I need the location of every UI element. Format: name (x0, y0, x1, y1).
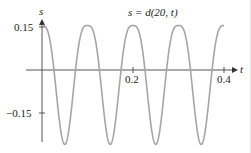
y-tick-label-bottom: −0.15 (6, 108, 31, 119)
y-axis-arrow-icon (39, 19, 45, 25)
x-axis-arrow-icon (232, 67, 238, 73)
x-axis-label: t (240, 64, 243, 75)
x-tick-label-mid: 0.2 (125, 74, 139, 85)
data-curve (42, 26, 224, 145)
y-axis-label: s (39, 6, 43, 17)
x-tick-label-end: 0.4 (217, 74, 231, 85)
chart-title: s = d(20, t) (128, 7, 178, 18)
y-tick-label-top: 0.15 (14, 22, 33, 33)
right-edge-divider (250, 0, 251, 153)
